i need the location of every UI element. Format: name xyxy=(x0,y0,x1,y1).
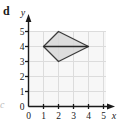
x-tick-label-5: 5 xyxy=(101,111,106,121)
x-tick-label-2: 2 xyxy=(56,111,61,121)
y-tick-label-0: 0 xyxy=(20,102,25,112)
x-axis-arrow-icon xyxy=(107,104,115,110)
x-tick-label-4: 4 xyxy=(86,111,91,121)
y-axis-arrow-icon xyxy=(26,14,32,22)
y-axis-label: y xyxy=(20,7,26,18)
y-tick-label-2: 2 xyxy=(20,72,25,82)
y-tick-label-1: 1 xyxy=(20,87,25,97)
y-tick-label-5: 5 xyxy=(20,27,25,37)
x-tick-label-1: 1 xyxy=(41,111,46,121)
x-axis-label: x xyxy=(111,110,117,121)
x-tick-label-0: 0 xyxy=(26,111,31,121)
y-tick-label-4: 4 xyxy=(20,42,25,52)
coordinate-plot: 5 4 3 2 1 0 0 1 2 3 4 5 y x xyxy=(0,0,120,124)
x-tick-label-3: 3 xyxy=(71,111,76,121)
figure-panel: d c xyxy=(0,0,120,124)
y-tick-label-3: 3 xyxy=(20,57,25,67)
